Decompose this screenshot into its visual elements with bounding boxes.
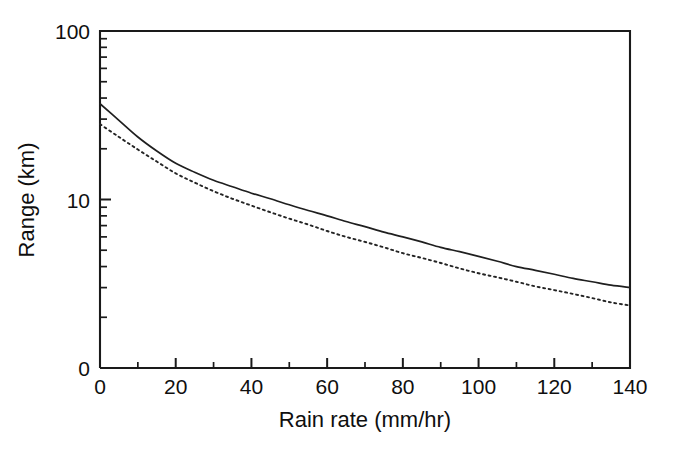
x-tick-label: 40 (240, 375, 263, 398)
x-tick-label: 20 (164, 375, 187, 398)
y-tick-label: 100 (55, 20, 90, 43)
series-line-upper-curve (100, 104, 630, 288)
x-axis-title: Rain rate (mm/hr) (279, 407, 451, 432)
series-line-lower-curve (100, 124, 630, 305)
x-tick-label: 100 (461, 375, 496, 398)
x-axis-tick-labels: 020406080100120140 (94, 375, 647, 398)
y-axis-title: Range (km) (14, 143, 39, 258)
y-tick-label: 10 (67, 189, 90, 212)
x-tick-label: 0 (94, 375, 106, 398)
data-series-layer (100, 104, 630, 306)
y-tick-label: 0 (78, 357, 90, 380)
figure-root: 100100 020406080100120140 Rain rate (mm/… (0, 0, 678, 449)
y-axis-tick-labels: 100100 (55, 20, 90, 380)
x-tick-label: 120 (537, 375, 572, 398)
x-tick-label: 60 (315, 375, 338, 398)
chart-canvas: 100100 020406080100120140 Rain rate (mm/… (0, 0, 678, 449)
x-tick-label: 140 (612, 375, 647, 398)
x-tick-label: 80 (391, 375, 414, 398)
plot-frame (100, 31, 630, 368)
